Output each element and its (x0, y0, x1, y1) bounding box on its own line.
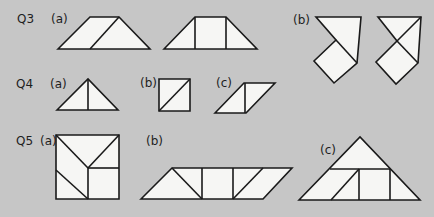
q3a-trapezoid-1 (58, 17, 150, 49)
q4c-parallelogram (215, 83, 275, 113)
q3b-shape-2 (376, 17, 421, 84)
q4a-triangle (57, 79, 118, 110)
q4b-square (159, 79, 190, 111)
q3b-shape-1 (314, 17, 361, 83)
q5b-parallelogram (141, 168, 292, 199)
q5a-square (56, 135, 119, 199)
q5c-triangle (299, 137, 420, 200)
q3a-trapezoid-2 (164, 17, 257, 49)
figures-canvas (0, 0, 434, 217)
